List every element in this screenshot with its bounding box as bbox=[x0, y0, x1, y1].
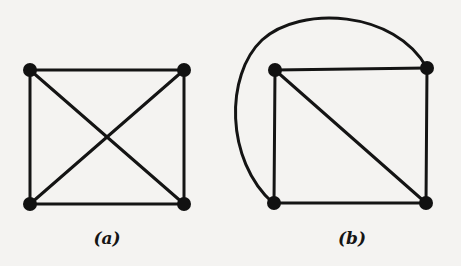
vertex-b-bottom-left bbox=[267, 196, 281, 210]
caption-a: (a) bbox=[93, 228, 120, 248]
vertex-b-top-right bbox=[420, 61, 434, 75]
caption-b: (b) bbox=[338, 228, 366, 248]
vertex-a-top-right bbox=[177, 63, 191, 77]
edge-b-outer-arc bbox=[235, 18, 427, 203]
graph-b: (b) bbox=[235, 18, 434, 248]
vertex-b-bottom-right bbox=[419, 196, 433, 210]
vertex-a-top-left bbox=[23, 63, 37, 77]
edge-b-top bbox=[275, 68, 427, 70]
edge-b-left bbox=[274, 70, 275, 203]
vertex-a-bottom-right bbox=[177, 197, 191, 211]
vertex-b-top-left bbox=[268, 63, 282, 77]
edge-b-right bbox=[426, 68, 427, 203]
vertex-a-bottom-left bbox=[23, 197, 37, 211]
graph-a: (a) bbox=[23, 63, 191, 248]
k4-figure: (a) (b) bbox=[0, 0, 461, 266]
edge-b-diagonal bbox=[275, 70, 426, 203]
